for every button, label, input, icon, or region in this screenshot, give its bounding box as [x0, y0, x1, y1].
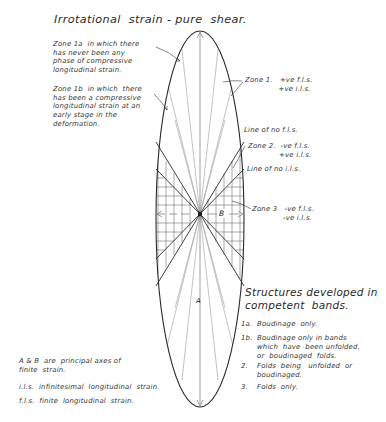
structures-heading: Structures developed in competent bands.	[245, 286, 378, 311]
item-number: 3.	[241, 383, 248, 392]
item-text: Boudinage only.	[257, 320, 318, 329]
zone-1a-annotation: Zone 1a in which there has never been an…	[53, 40, 139, 75]
line-no-ils-annotation: Line of no i.l.s.	[247, 165, 301, 174]
leader-lines	[154, 47, 251, 209]
legend-fls: f.l.s. finite longitudinal strain.	[19, 397, 134, 406]
axis-b-label: B	[217, 209, 226, 218]
item-number: 1a.	[241, 320, 252, 329]
axis-a-label: A	[196, 297, 201, 306]
item-number: 2.	[241, 362, 248, 371]
center-point	[198, 212, 202, 216]
item-text: Folds only.	[257, 383, 298, 392]
zone-2-annotation: Zone 2. -ve f.l.s. +ve i.l.s.	[248, 142, 311, 159]
a-axis	[197, 32, 203, 406]
item-number: 1b.	[241, 334, 253, 343]
zone-1-annotation: Zone 1. +ve f.l.s. +ve i.l.s.	[245, 76, 313, 93]
line-no-fls-annotation: Line of no f.l.s.	[244, 126, 298, 135]
zone-3-annotation: Zone 3 -ve f.l.s. -ve i.l.s.	[252, 205, 314, 222]
zone-1b-annotation: Zone 1b in which there has been a compre…	[53, 85, 142, 128]
item-text: Boudinage only in bands which have been …	[257, 334, 360, 361]
legend-ils: i.l.s. infinitesimal longitudinal strain…	[19, 383, 160, 392]
legend-principal-axes: A & B are principal axes of finite strai…	[19, 357, 121, 374]
item-text: Folds being unfolded or boudinaged.	[257, 362, 352, 380]
